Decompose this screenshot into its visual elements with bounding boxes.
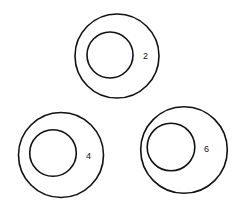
figure-label: 6 <box>204 144 209 154</box>
diagram-canvas: 2 4 6 <box>0 0 239 205</box>
figure-2: 2 <box>75 14 159 98</box>
figure-6: 6 <box>141 107 228 194</box>
outer-circle <box>141 107 228 194</box>
inner-circle <box>87 32 133 78</box>
inner-circle <box>147 123 195 171</box>
figure-label: 2 <box>143 51 148 61</box>
figure-4: 4 <box>19 113 104 198</box>
figure-label: 4 <box>86 151 91 161</box>
inner-circle <box>30 130 77 177</box>
